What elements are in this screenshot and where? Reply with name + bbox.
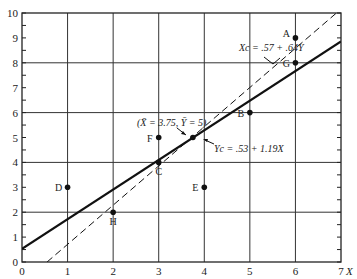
point-label: A (283, 28, 291, 39)
y-tick-label: 10 (7, 7, 19, 19)
arrow-head-icon (203, 139, 208, 142)
y-tick-label: 6 (13, 107, 19, 119)
data-point-c (156, 160, 162, 166)
point-label: H (110, 216, 117, 227)
x-tick-label: 2 (110, 265, 116, 277)
y-tick-label: 5 (13, 132, 19, 144)
point-label: F (147, 133, 153, 144)
y-tick-label: 3 (13, 181, 19, 193)
y-tick-label: 8 (13, 57, 19, 69)
y-tick-label: 4 (13, 156, 19, 168)
y-tick-label: 2 (13, 206, 19, 218)
data-point-a (293, 35, 299, 41)
data-point-h (110, 209, 116, 215)
x-tick-label: 0 (19, 265, 25, 277)
x-tick-label: 3 (156, 265, 162, 277)
y-tick-label: 1 (13, 231, 19, 243)
point-label: G (283, 58, 290, 69)
x-tick-label: 5 (247, 265, 253, 277)
y-tick-label: 7 (13, 82, 19, 94)
data-point-g (293, 60, 299, 66)
x-tick-label: 6 (293, 265, 299, 277)
regression-chart: 01234567891001234567XAGBFCEDH(X̄ = 3.75,… (0, 0, 357, 279)
data-point-e (201, 185, 207, 191)
x-tick-label: 4 (202, 265, 208, 277)
y-tick-label: 9 (13, 32, 19, 44)
data-point-f (156, 135, 162, 141)
data-point-d (65, 185, 71, 191)
y-tick-label: 0 (13, 256, 19, 268)
x-axis-label: X (345, 265, 354, 277)
equation-y-on-x: Yc = .53 + 1.19X (214, 143, 284, 154)
mean-point-label: (X̄ = 3.75, Ȳ = 5) (137, 117, 207, 129)
x-tick-label: 7 (338, 265, 344, 277)
point-label: B (238, 108, 245, 119)
x-tick-label: 1 (65, 265, 71, 277)
data-point-b (247, 110, 253, 116)
point-label: E (192, 182, 198, 193)
mean-point (190, 135, 196, 141)
equation-x-on-y: Xc = .57 + .64Y (238, 42, 305, 53)
point-label: C (155, 166, 162, 177)
regression-line-y-on-x (22, 41, 341, 248)
point-label: D (55, 182, 62, 193)
